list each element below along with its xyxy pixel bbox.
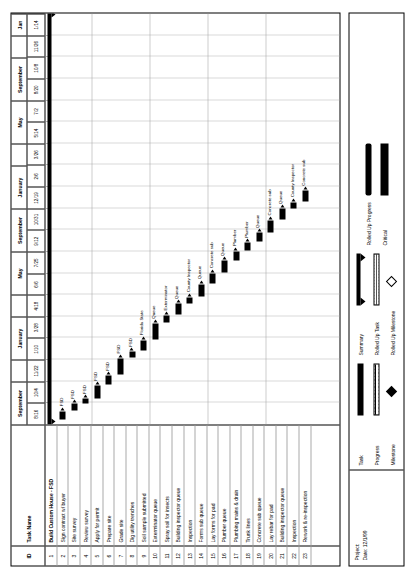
legend-symbol-summary-bracket (354, 251, 366, 305)
task-row-label[interactable]: Inspection (184, 425, 196, 545)
task-row-label[interactable]: Soil sample submitted (137, 425, 149, 545)
timeline-week-tick: 8/20 (27, 78, 44, 100)
task-row-label[interactable]: Build Custom House - FSD (45, 425, 57, 545)
timeline-week-tick: 5/14 (27, 121, 44, 143)
dependency-arrow (303, 186, 307, 189)
bar-resource-label: Concrete sub (266, 189, 271, 215)
task-row-label[interactable]: Building inspector queue (276, 425, 288, 545)
timeline-month (11, 294, 26, 316)
timeline-week-tick: 1/14 (27, 13, 44, 35)
task-row-label[interactable]: Site survey (68, 425, 80, 545)
row-id: 4 (80, 546, 92, 565)
task-row-label[interactable]: Dig utility trenches (126, 425, 138, 545)
task-bar[interactable] (129, 351, 135, 357)
timeline-week-tick: 9/12 (27, 229, 44, 251)
dependency-arrow (106, 371, 110, 374)
task-row-label[interactable]: Plumber queue (218, 425, 230, 545)
task-bar[interactable] (105, 375, 111, 384)
task-row-label[interactable]: Grade site (114, 425, 126, 545)
dependency-arrow (280, 204, 284, 207)
task-row-label[interactable]: Lay forms for pad (207, 425, 219, 545)
task-bar[interactable] (279, 208, 285, 219)
task-bar[interactable] (233, 251, 239, 260)
timeline-header: SeptemberJanuaryMaySeptemberJanuaryMaySe… (11, 13, 45, 424)
legend-label: Rolled Up Milestone (389, 305, 395, 355)
task-row-label[interactable]: Forms sub queue (195, 425, 207, 545)
dependency-arrow (187, 293, 191, 296)
task-bar[interactable] (198, 284, 204, 296)
legend-symbol-rolled-up-task-bar (370, 251, 382, 305)
gantt-sheet: ID 1234567891011121314151617181920212223… (0, 0, 415, 578)
bar-resource-label: Plumber (231, 229, 236, 245)
gantt-row: Queue (253, 13, 265, 424)
gantt-row: Concrete sub (265, 13, 277, 424)
task-bar[interactable] (94, 385, 100, 397)
bar-resource-label: Queue (196, 265, 201, 278)
task-row-label[interactable]: Lay rebar for pad (264, 425, 276, 545)
task-bar[interactable] (59, 411, 65, 419)
gantt-row: Plumber (230, 13, 242, 424)
task-bar[interactable] (302, 190, 308, 201)
row-id: 8 (126, 546, 138, 565)
gantt-row: Queue (195, 13, 207, 424)
summary-bar[interactable] (47, 13, 50, 424)
timeline-month-row: SeptemberJanuaryMaySeptemberJanuaryMaySe… (11, 13, 27, 424)
legend-label: Rolled Up Progress (365, 195, 371, 245)
task-row-label[interactable]: Trunk lines (241, 425, 253, 545)
task-bar[interactable] (290, 202, 296, 208)
gantt-row: Florida State (137, 13, 149, 424)
bar-resource-label: Florida State (138, 310, 143, 335)
gantt-row: Queue (218, 13, 230, 424)
task-row-label[interactable]: Rework & re-inspection (299, 425, 311, 545)
task-bar[interactable] (256, 232, 262, 241)
task-row-label[interactable]: Concrete sub queue (253, 425, 265, 545)
task-row-label[interactable]: Spray soil for insects (160, 425, 172, 545)
task-bar[interactable] (244, 242, 250, 249)
task-row-label[interactable]: Exterminator queue (149, 425, 161, 545)
task-bar[interactable] (82, 398, 88, 402)
gantt-row: Concrete sub (207, 13, 219, 424)
task-row-label[interactable]: Plumbing mains & drain (230, 425, 242, 545)
timeline-month: September (11, 381, 26, 424)
id-cells: 1234567891011121314151617181920212223 (45, 546, 311, 565)
timeline-week-tick: 3/26 (27, 143, 44, 165)
task-bar[interactable] (267, 220, 273, 232)
task-bar[interactable] (175, 303, 181, 314)
bar-resource-label: Queue (277, 190, 282, 203)
gantt-row: FSD (80, 13, 92, 424)
task-bar[interactable] (186, 297, 192, 303)
legend-label: Milestone (389, 415, 395, 465)
row-id: 1 (45, 546, 57, 565)
timeline-month: September (11, 208, 26, 251)
task-bar[interactable] (152, 323, 158, 339)
row-id: 23 (299, 546, 311, 565)
gantt-row: FSD (126, 13, 138, 424)
timeline-month: Jan (11, 13, 26, 35)
task-row-label[interactable]: Apply for permit (91, 425, 103, 545)
task-bar[interactable] (163, 315, 169, 322)
task-row-label[interactable]: Inspection (287, 425, 299, 545)
dependency-arrow (83, 394, 87, 397)
row-id: 5 (91, 546, 103, 565)
task-row-label[interactable]: Prepare site (103, 425, 115, 545)
dependency-arrow (291, 198, 295, 201)
task-row-label[interactable]: Sign contract w/ buyer (57, 425, 69, 545)
task-bar[interactable] (117, 358, 123, 375)
timeline-week-tick: 6/6 (27, 273, 44, 295)
timeline-month: May (11, 100, 26, 143)
gantt-row: Exterminator (161, 13, 173, 424)
legend-label: Task (357, 415, 363, 465)
task-bar[interactable] (221, 260, 227, 272)
task-row-label[interactable]: Building inspector queue (172, 425, 184, 545)
legend-column: TaskProgressMilestone (349, 355, 403, 465)
bar-resource-label: FSD (92, 371, 97, 380)
task-bar[interactable] (140, 340, 146, 351)
timeline-body[interactable]: FSDFSDFSDFSDFSDFSDFSDFlorida StateQueueE… (45, 13, 339, 424)
task-bar[interactable] (71, 403, 77, 410)
task-bar[interactable] (209, 273, 215, 283)
legend-label: Critical (381, 195, 387, 245)
row-id: 21 (276, 546, 288, 565)
legend-item: Rolled Up Milestone (384, 251, 400, 355)
timeline-month: September (11, 57, 26, 100)
task-row-label[interactable]: Review survey (80, 425, 92, 545)
